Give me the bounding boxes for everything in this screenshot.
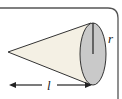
length-label: l <box>47 79 51 92</box>
cone-diagram <box>0 0 122 99</box>
radius-label: r <box>108 32 113 45</box>
cone-body <box>8 23 91 85</box>
